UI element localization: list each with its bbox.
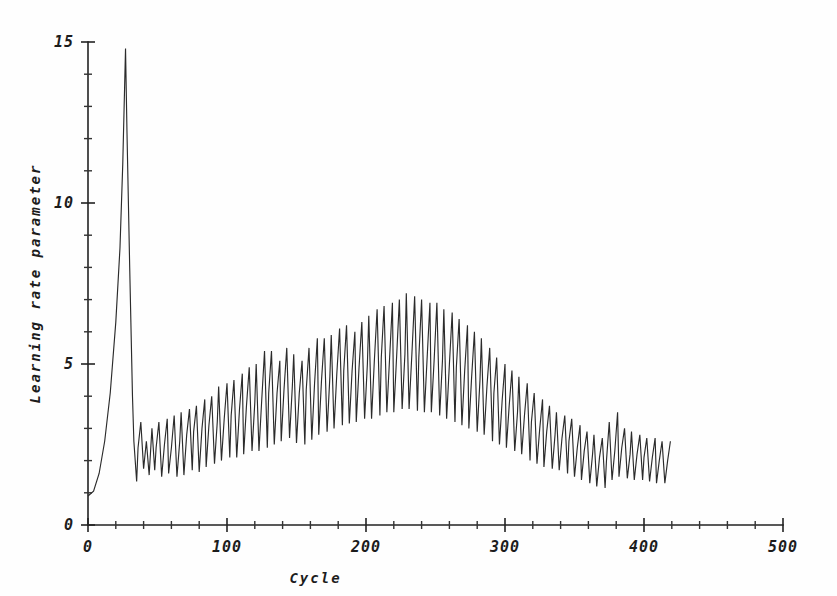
x-tick-label: 500 — [768, 538, 798, 556]
x-tick-label: 400 — [629, 538, 659, 556]
x-tick-label: 300 — [489, 538, 520, 556]
x-axis-tick-labels: 0100200300400500 — [83, 538, 798, 556]
x-tick-label: 0 — [83, 538, 93, 556]
y-tick-label: 10 — [54, 194, 74, 212]
x-tick-label: 200 — [350, 538, 381, 556]
data-series-line — [88, 48, 670, 496]
x-axis-title: Cycle — [289, 570, 341, 586]
y-axis-title: Learning rate parameter — [27, 164, 43, 404]
chart-figure: 051015 Learning rate parameter 010020030… — [0, 0, 837, 596]
y-axis: 051015 Learning rate parameter — [27, 33, 95, 534]
y-axis-tick-labels: 051015 — [54, 33, 74, 534]
y-tick-label: 0 — [64, 516, 74, 534]
chart-canvas: 051015 Learning rate parameter 010020030… — [0, 0, 837, 596]
x-axis: 0100200300400500 Cycle — [83, 518, 798, 586]
y-tick-label: 5 — [64, 355, 74, 373]
plot-series-group — [88, 48, 670, 496]
y-tick-label: 15 — [54, 33, 74, 51]
x-tick-label: 100 — [212, 538, 242, 556]
